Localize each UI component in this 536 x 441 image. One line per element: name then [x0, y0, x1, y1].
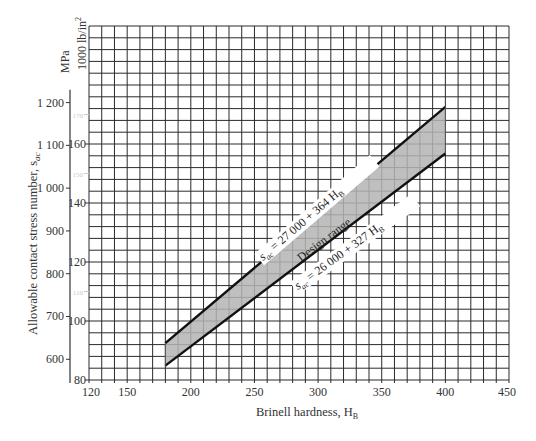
x-tick-label: 250 — [245, 385, 263, 399]
x-axis: 120150200250300350400450 — [82, 385, 516, 399]
y-axis: 6007008009001 0001 1001 2008010012014016… — [37, 90, 89, 387]
grid — [89, 26, 509, 383]
y-axis-title: Allowable contact stress number, sac — [26, 152, 42, 335]
x-tick-label: 300 — [309, 385, 327, 399]
mpa-tick-label: 1 200 — [37, 96, 64, 110]
mpa-tick-label: 800 — [46, 267, 64, 281]
mpa-tick-label: 900 — [46, 224, 64, 238]
ksi-tick-label: 160 — [68, 137, 86, 151]
mpa-tick-label: 700 — [46, 309, 64, 323]
x-tick-label: 400 — [436, 385, 454, 399]
ksi-tick-label: 140 — [68, 196, 86, 210]
unit-ksi-label: 1000 lb/in2 — [74, 17, 89, 70]
x-axis-title: Brinell hardness, HB — [256, 405, 358, 421]
mpa-tick-label: 1 100 — [37, 138, 64, 152]
x-tick-label: 200 — [182, 385, 200, 399]
unit-mpa-label: MPa — [58, 50, 72, 73]
x-tick-label: 350 — [373, 385, 391, 399]
x-tick-label: 120 — [82, 385, 100, 399]
mpa-tick-label: 600 — [46, 352, 64, 366]
mpa-tick-label: 1 000 — [37, 181, 64, 195]
chart: 6007008009001 0001 1001 2008010012014016… — [0, 0, 536, 441]
x-tick-label: 150 — [118, 385, 136, 399]
ksi-faint-tick-label: 110 — [73, 289, 84, 297]
x-tick-label: 450 — [498, 385, 516, 399]
ksi-tick-label: 120 — [68, 255, 86, 269]
ksi-tick-label: 100 — [68, 314, 86, 328]
ksi-faint-tick-label: 170 — [73, 112, 84, 120]
ksi-faint-tick-label: 150 — [73, 171, 84, 179]
